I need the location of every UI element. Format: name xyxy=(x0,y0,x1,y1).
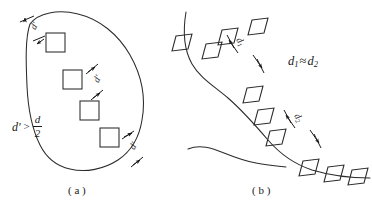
relation-formula-panel-a: d' > d 2 xyxy=(12,114,42,139)
relation-operator: > xyxy=(23,121,31,132)
marker-parallelogram xyxy=(248,18,268,35)
marker-square xyxy=(100,128,119,147)
subscript: 1 xyxy=(294,59,298,69)
panel-caption-b: ( b ) xyxy=(252,184,270,196)
marker-parallelogram xyxy=(266,129,286,146)
panel-b-group xyxy=(172,12,370,185)
relation-right-term: d2 xyxy=(307,54,318,68)
main-curve-b xyxy=(184,12,370,178)
figure-container: d' d' d' d1 d2 d' > d 2 d1≈d2 ( a ) ( b … xyxy=(0,0,372,205)
fraction-denominator: 2 xyxy=(33,128,43,139)
secondary-wavy-line-b xyxy=(188,147,286,167)
relation-left-term: d' xyxy=(12,121,21,133)
marker-parallelogram xyxy=(299,159,319,176)
subscript: 2 xyxy=(314,59,318,69)
figure-caption xyxy=(0,199,372,205)
figure-drawing-canvas xyxy=(0,0,372,205)
marker-parallelogram xyxy=(348,168,368,185)
relation-formula-panel-b: d1≈d2 xyxy=(288,55,318,69)
blob-outline-a xyxy=(26,12,143,171)
marker-parallelogram xyxy=(172,34,192,51)
fraction-numerator: d xyxy=(33,114,43,125)
marker-square xyxy=(63,70,82,89)
marker-square xyxy=(46,33,65,52)
panel-caption-a: ( a ) xyxy=(68,184,86,196)
marker-parallelogram xyxy=(243,86,263,103)
prime-symbol: ' xyxy=(18,120,21,134)
panel-a-group xyxy=(20,12,144,171)
relation-left-term: d1 xyxy=(288,54,299,68)
marker-parallelogram xyxy=(254,108,274,125)
marker-square xyxy=(80,101,99,120)
fraction: d 2 xyxy=(33,114,43,139)
